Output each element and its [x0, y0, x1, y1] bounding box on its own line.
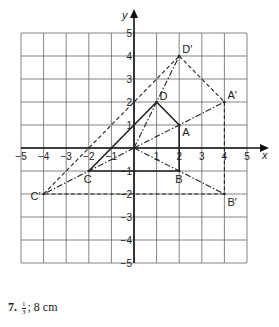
vertex-dot	[88, 170, 91, 173]
scale-fraction: 13	[22, 301, 26, 316]
x-tick-label: −2	[83, 151, 95, 162]
vertex-dot	[178, 170, 181, 173]
y-tick-label: 4	[126, 51, 132, 62]
y-tick-label: 3	[126, 74, 132, 85]
vertex-dot	[223, 101, 226, 104]
x-tick-label: 2	[176, 151, 182, 162]
vertex-label-B: B	[175, 173, 182, 185]
vertex-label-D: D	[160, 90, 168, 102]
y-tick-label: −3	[121, 212, 133, 223]
x-tick-label: 5	[244, 151, 250, 162]
vertex-label-B_prime: B′	[227, 196, 236, 208]
y-tick-label: −2	[121, 189, 133, 200]
y-tick-label: −5	[121, 258, 133, 269]
x-tick-label: −5	[15, 151, 27, 162]
x-axis-label: x	[261, 149, 268, 161]
x-tick-label: 3	[199, 151, 205, 162]
y-axis-label: y	[121, 9, 129, 21]
vertex-label-A: A	[182, 126, 190, 138]
enlargement-diagram: xy−5−4−3−2−11234554321−1−2−3−4−5ABCDA′B′…	[0, 0, 279, 290]
x-tick-label: 1	[154, 151, 160, 162]
x-tick-label: −3	[60, 151, 72, 162]
vertex-label-C_prime: C′	[31, 190, 41, 202]
axes	[21, 9, 269, 263]
answer-caption: 7. 13; 8 cm	[8, 300, 58, 316]
y-arrow-icon	[130, 9, 138, 18]
y-tick-label: 5	[126, 28, 132, 39]
question-number: 7.	[8, 300, 17, 314]
y-tick-label: 2	[126, 97, 132, 108]
edge-CD	[89, 102, 157, 171]
vertex-label-A_prime: A′	[227, 89, 236, 101]
y-tick-label: −1	[121, 166, 133, 177]
x-tick-label: −4	[38, 151, 50, 162]
vertex-label-D_prime: D′	[182, 43, 192, 55]
vertex-label-C: C	[84, 173, 92, 185]
vertex-dot	[155, 101, 158, 104]
y-tick-label: 1	[126, 120, 132, 131]
vertex-dot	[42, 193, 45, 196]
vertex-dot	[178, 55, 181, 58]
x-tick-label: −1	[106, 151, 118, 162]
edge-DA	[157, 102, 180, 125]
x-tick-label: 4	[222, 151, 228, 162]
vertex-dot	[178, 124, 181, 127]
point-labels: xy−5−4−3−2−11234554321−1−2−3−4−5ABCDA′B′…	[15, 9, 268, 269]
vertex-dot	[223, 193, 226, 196]
length-answer: 8 cm	[34, 300, 58, 314]
y-tick-label: −4	[121, 235, 133, 246]
